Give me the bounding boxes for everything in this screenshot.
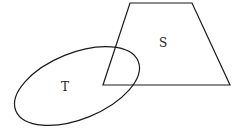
label-t: T <box>61 80 69 94</box>
label-s: S <box>159 36 167 50</box>
set-diagram: S T <box>0 0 242 129</box>
ellipse-t <box>3 31 150 129</box>
